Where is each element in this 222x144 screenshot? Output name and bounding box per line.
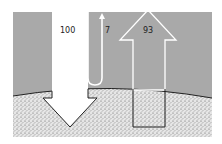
atmosphere-block-left — [13, 12, 52, 100]
incoming-value-label: 100 — [60, 26, 75, 35]
ground-surface — [13, 88, 212, 137]
emitted-value-label: 93 — [143, 26, 153, 35]
energy-balance-diagram: 100 7 93 — [0, 0, 222, 144]
reflected-value-label: 7 — [105, 26, 110, 35]
